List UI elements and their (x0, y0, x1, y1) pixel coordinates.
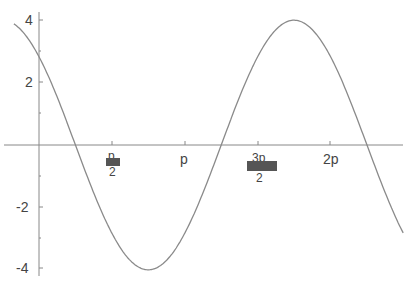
x-tick-label-2pi: 2p (323, 151, 339, 167)
y-tick-label-4: 4 (25, 12, 33, 28)
y-tick-label-2: 2 (25, 74, 33, 90)
function-plot: 4 2 -2 -4 p 2 p 3p 2 2p (0, 0, 405, 294)
svg-text:2: 2 (256, 171, 263, 185)
x-tick-label-pi-half: p 2 (106, 149, 120, 179)
y-tick-label-neg2: -2 (16, 199, 29, 215)
x-tick-label-3pi-half: 3p 2 (247, 151, 277, 185)
y-tick-label-neg4: -4 (16, 260, 29, 276)
svg-text:2: 2 (109, 165, 116, 179)
x-tick-label-pi: p (180, 151, 188, 167)
